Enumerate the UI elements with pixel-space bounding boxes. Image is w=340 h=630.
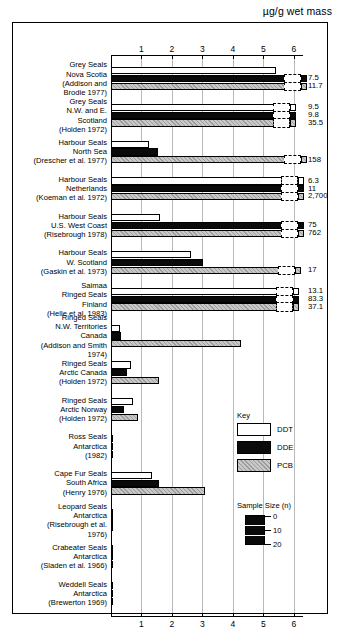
bar-dde [111,443,113,450]
chart-root: µg/g wet mass Grey Seals Nova Scotia (Ad… [0,0,340,630]
bar-dde-truncated-end [293,296,299,303]
category-label: Ringed Seals Arctic Norway (Holden 1972) [59,396,107,424]
bar-ddt [111,177,282,184]
bar-value-label: 762 [308,229,321,238]
sample-size-title: Sample Size (n) [237,501,323,510]
bar-pcb [111,561,113,568]
category-label: Ringed Seals Arctic Canada (Holden 1972) [59,359,107,387]
bar-value-label: 17 [308,266,317,275]
axis-tick-label: 6 [291,619,296,629]
chart-frame: Grey Seals Nova Scotia (Addison and Brod… [12,22,328,614]
bar-dde [111,75,285,82]
gridline-2 [172,55,173,617]
bar-ddt-truncated-end [298,177,304,184]
axis-break-marker [276,302,293,311]
legend-key: Key DDT DDE PCB [237,411,317,477]
bar-value-label: 35.5 [308,119,323,128]
legend-swatch-dde [237,441,271,454]
axis-unit-label: µg/g wet mass [263,5,332,17]
bar-ddt-truncated-end [290,104,296,111]
axis-break-marker [284,82,301,91]
legend-label-dde: DDE [277,443,293,452]
legend-swatch-ddt [237,423,271,436]
gridline-3 [202,55,203,617]
bar-dde-truncated-end [290,112,296,119]
bar-value-label: 37.1 [308,303,323,312]
sample-size-body: 0 10 20 [237,513,323,553]
bar-pcb [111,193,282,200]
sample-size-divider-2 [245,535,265,536]
bar-ddt [111,545,113,552]
bar-dde-truncated-end [298,185,304,192]
axis-tick-label: 4 [231,44,236,54]
bar-pcb-truncated-end [290,119,296,126]
bar-dde [111,222,282,229]
bar-dde [111,406,124,413]
bar-dde [111,296,277,303]
legend-title: Key [237,411,317,420]
bar-dde [111,332,121,339]
bar-pcb-truncated-end [298,230,304,237]
axis-break-marker [281,192,298,201]
sample-size-label-10: 10 [273,526,281,535]
bar-dde [111,369,127,376]
sample-size-divider-1 [245,525,265,526]
axis-tick-label: 2 [170,619,175,629]
bar-ddt [111,104,274,111]
bar-dde [111,516,113,523]
bar-pcb-truncated-end [295,267,301,274]
legend-entry-pcb: PCB [237,459,317,472]
sample-size-legend: Sample Size (n) 0 10 20 [237,501,323,553]
bar-ddt [111,361,131,368]
bar-pcb [111,267,279,274]
bar-pcb [111,83,285,90]
category-label: Ross Seals Antarctica (1982) [69,433,107,461]
bar-dde [111,185,282,192]
category-label: Grey Seals Nova Scotia (Addison and Brod… [62,60,107,97]
category-label: Leopard Seals Antarctica (Risebrough et … [47,502,107,539]
sample-size-stack [245,515,265,545]
bar-ddt [111,509,113,516]
bar-pcb [111,340,241,347]
axis-tick-label: 5 [261,619,266,629]
category-label: Harbour Seals U.S. West Coast (Risebroug… [44,212,107,240]
legend-swatch-pcb [237,459,271,472]
bar-pcb [111,119,274,126]
bar-pcb [111,303,277,310]
bar-value-label: 11.7 [308,82,323,91]
bar-ddt [111,214,160,221]
bar-dde [111,590,113,597]
bar-pcb [111,487,205,494]
sample-size-label-0: 0 [273,512,277,521]
bar-value-label: 158 [308,156,321,165]
axis-tick-label: 5 [261,44,266,54]
category-label: Harbour Seals W. Scotland (Gaskin et al.… [41,249,107,277]
bar-pcb [111,598,113,605]
category-label: Weddell Seals Antarctica (Brewerton 1969… [48,580,107,608]
bar-dde [111,112,274,119]
sample-size-tick-10 [265,530,271,531]
category-label: Crabeater Seals Antarctica (Sladen et al… [41,543,107,571]
axis-break-marker [273,118,290,127]
legend-label-ddt: DDT [277,425,293,434]
sample-size-tick-20 [265,544,271,545]
bar-pcb [111,524,113,531]
legend-label-pcb: PCB [277,461,293,470]
axis-tick-label: 6 [291,44,296,54]
category-label: Cape Fur Seals South Africa (Henry 1976) [54,469,107,497]
axis-tick-label: 1 [139,619,144,629]
bar-ddt [111,435,113,442]
category-label: Ringed Seals N.W. Territories Canada (Ad… [41,313,107,359]
axis-break-marker [278,266,295,275]
bar-pcb [111,414,138,421]
bar-ddt [111,582,113,589]
category-label: Harbour Seals Netherlands (Koeman et al.… [36,175,107,203]
axis-tick-label: 4 [231,619,236,629]
gridline-4 [233,55,234,617]
axis-break-marker [284,155,301,164]
bar-value-label: 2,700 [308,192,328,201]
legend-entry-dde: DDE [237,441,317,454]
category-label: Grey Seals N.W. and E. Scotland (Holden … [59,97,107,134]
bar-dde [111,148,158,155]
bar-ddt-truncated-end [293,288,299,295]
